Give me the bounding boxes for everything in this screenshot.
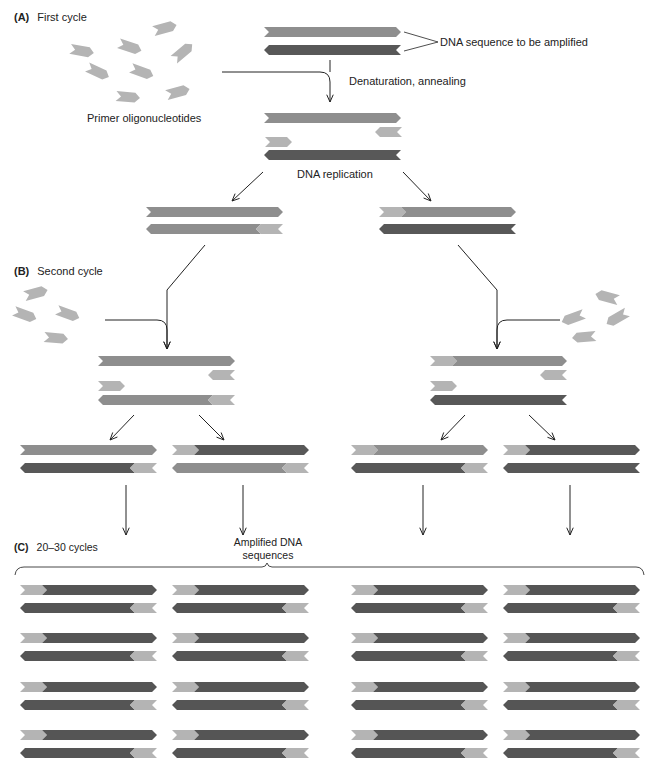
arrow-line — [441, 415, 465, 440]
free-primer-icon — [594, 289, 620, 305]
primer-segment — [130, 748, 157, 758]
primer-segment — [20, 585, 47, 595]
primer-segment — [461, 651, 488, 661]
free-primer-icon — [69, 44, 94, 58]
amplified-bottom-strand — [351, 651, 488, 661]
strand-segment — [503, 463, 640, 473]
amplified-bottom-strand — [172, 651, 309, 661]
primer-segment — [461, 748, 488, 758]
primer-segment — [351, 730, 378, 740]
top-strand — [98, 356, 235, 366]
strand-segment — [194, 730, 309, 740]
top-strand — [351, 445, 488, 455]
arrow-line — [529, 415, 555, 440]
bottom-strand — [98, 395, 235, 405]
strand-segment — [172, 700, 287, 710]
amplified-bottom-strand — [503, 700, 640, 710]
arrow-line — [110, 415, 134, 440]
strand-segment — [194, 585, 309, 595]
strand-segment — [525, 633, 640, 643]
amplified-label-line1: Amplified DNA — [225, 536, 311, 549]
strand-segment — [172, 463, 287, 473]
amplified-top-strand — [172, 730, 309, 740]
strand-segment — [42, 730, 157, 740]
amplified-top-strand — [503, 585, 640, 595]
strand-segment — [430, 395, 567, 405]
amplified-top-strand — [172, 682, 309, 692]
strand-segment — [540, 370, 567, 380]
amplified-label: Amplified DNA sequences — [225, 536, 311, 562]
strand-segment — [42, 585, 157, 595]
arrow-line — [458, 245, 497, 349]
strand-segment — [42, 633, 157, 643]
primer-segment — [613, 748, 640, 758]
denaturation-label: Denaturation, annealing — [349, 75, 466, 88]
primer-segment — [613, 700, 640, 710]
primer-segment — [172, 585, 199, 595]
section-a-title: First cycle — [37, 11, 87, 23]
strand-segment — [264, 27, 401, 37]
strand-segment — [401, 207, 516, 217]
bottom-strand — [172, 463, 309, 473]
free-primer-icon — [44, 332, 69, 344]
amplified-top-strand — [20, 682, 157, 692]
section-c-letter: (C) — [14, 541, 29, 553]
primer-segment — [172, 730, 199, 740]
free-primer-icon — [165, 84, 191, 100]
top-strand — [430, 356, 567, 366]
strand-segment — [194, 445, 309, 455]
primer-segment — [351, 633, 378, 643]
strand-segment — [98, 356, 235, 366]
strand-segment — [42, 682, 157, 692]
amplified-bottom-strand — [351, 603, 488, 613]
strand-segment — [98, 395, 213, 405]
bound-primer — [208, 370, 235, 380]
bottom-strand — [146, 224, 283, 234]
amplified-bottom-strand — [20, 651, 157, 661]
primer-segment — [613, 651, 640, 661]
top-strand — [172, 445, 309, 455]
strand-segment — [525, 585, 640, 595]
strand-segment — [265, 137, 292, 147]
strand-segment — [373, 585, 488, 595]
amplified-bottom-strand — [503, 651, 640, 661]
bottom-strand — [351, 463, 488, 473]
amplified-bottom-strand — [20, 748, 157, 758]
strand-segment — [172, 651, 287, 661]
section-a-heading: (A)First cycle — [14, 11, 87, 24]
amplified-top-strand — [503, 633, 640, 643]
amplified-top-strand — [20, 585, 157, 595]
section-c-heading: (C)20–30 cycles — [14, 541, 98, 554]
bottom-strand — [430, 395, 567, 405]
free-primer-icon — [604, 308, 630, 329]
amplified-bottom-strand — [503, 603, 640, 613]
strand-segment — [351, 603, 466, 613]
strand-segment — [525, 445, 640, 455]
strand-segment — [503, 700, 618, 710]
bound-primer — [265, 137, 292, 147]
section-b-heading: (B)Second cycle — [14, 265, 103, 278]
free-primer-icon — [116, 91, 141, 103]
process-arrows — [105, 60, 573, 535]
free-primer-icon — [572, 331, 597, 343]
primer-segment — [130, 700, 157, 710]
strand-segment — [20, 700, 135, 710]
amplified-bottom-strand — [20, 603, 157, 613]
strand-segment — [525, 682, 640, 692]
amplified-top-strand — [20, 730, 157, 740]
bound-primer — [375, 127, 402, 137]
amplified-brace — [15, 563, 644, 575]
strand-segment — [20, 651, 135, 661]
bottom-strand — [503, 463, 640, 473]
arrow-line — [199, 415, 224, 440]
amplified-top-strand — [503, 730, 640, 740]
strand-segment — [264, 45, 401, 55]
top-strand — [379, 207, 516, 217]
top-strand — [503, 445, 640, 455]
amplified-top-strand — [351, 730, 488, 740]
strand-segment — [503, 603, 618, 613]
top-strand — [264, 113, 401, 123]
primer-segment — [461, 603, 488, 613]
primer-segment — [351, 682, 378, 692]
arrow-line — [167, 245, 205, 349]
